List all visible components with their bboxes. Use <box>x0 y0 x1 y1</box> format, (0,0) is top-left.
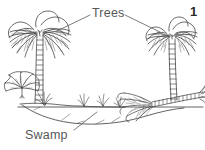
grass-tuft-right <box>114 97 125 107</box>
leader-line-swamp <box>74 112 97 130</box>
fan-palm-bush <box>4 72 39 98</box>
label-swamp: Swamp <box>25 129 68 142</box>
label-trees: Trees <box>92 7 125 20</box>
fallen-palm <box>118 83 205 122</box>
palm-tree-right <box>146 17 197 100</box>
bank-detail-strokes <box>34 107 120 124</box>
leader-line-trees-left <box>57 15 90 31</box>
figure-number: 1 <box>190 5 197 18</box>
palm-tree-left <box>8 11 71 103</box>
grass-tuft-mid-b <box>97 94 109 106</box>
grass-tuft-mid-a <box>78 94 89 106</box>
figure-container: Trees Swamp 1 <box>0 0 205 150</box>
leader-line-trees-right <box>125 15 160 32</box>
upper-bank-line <box>20 103 125 107</box>
near-bank <box>22 105 184 124</box>
